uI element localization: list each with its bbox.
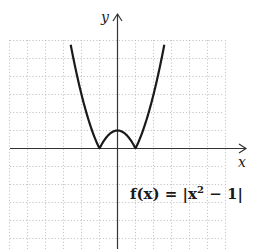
graph: x y f(x) = |x2 − 1| xyxy=(0,0,257,249)
function-label-rest: − 1| xyxy=(204,185,243,203)
y-axis-label: y xyxy=(100,9,110,25)
function-label-exponent: 2 xyxy=(197,184,204,195)
function-label: f(x) = |x2 − 1| xyxy=(130,184,243,203)
x-axis-label: x xyxy=(238,154,246,170)
function-label-name: f(x) = |x xyxy=(130,185,198,203)
